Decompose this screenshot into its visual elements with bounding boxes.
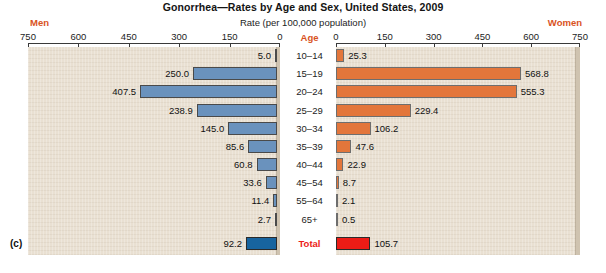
bar-value-label: 33.6 bbox=[239, 177, 266, 188]
axis-tick-label: 0 bbox=[277, 31, 282, 42]
bar-value-label: 60.8 bbox=[230, 159, 257, 170]
bar-women-15-19 bbox=[336, 67, 521, 80]
bar-men-25-29 bbox=[197, 104, 277, 117]
bar-value-label: 106.2 bbox=[371, 123, 403, 134]
bar-value-label: 229.4 bbox=[411, 105, 443, 116]
bar-row: 0.5 bbox=[336, 213, 576, 226]
bar-row: 250.0 bbox=[28, 67, 277, 80]
chart-title: Gonorrhea—Rates by Age and Sex, United S… bbox=[0, 1, 606, 13]
bar-men-35-39 bbox=[248, 140, 277, 153]
bar-men-65- bbox=[275, 213, 277, 226]
bar-men-30-34 bbox=[228, 122, 277, 135]
plot-panel-men: 5.0250.0407.5238.9145.085.660.833.611.42… bbox=[28, 47, 280, 255]
bar-women-total bbox=[336, 237, 370, 250]
bar-women-10-14 bbox=[336, 49, 344, 62]
bar-value-label: 250.0 bbox=[161, 68, 193, 79]
age-category-column: Age 10–1415–1920–2425–2930–3435–3940–444… bbox=[283, 31, 336, 255]
bar-women-40-44 bbox=[336, 158, 343, 171]
age-label-25-29: 25–29 bbox=[283, 104, 336, 117]
bar-value-label: 0.5 bbox=[338, 214, 359, 225]
bar-value-label: 568.8 bbox=[521, 68, 553, 79]
age-label-10-14: 10–14 bbox=[283, 49, 336, 62]
bar-row: 47.6 bbox=[336, 140, 576, 153]
bar-row: 85.6 bbox=[28, 140, 277, 153]
age-label-40-44: 40–44 bbox=[283, 158, 336, 171]
bar-value-label: 25.3 bbox=[344, 50, 371, 61]
bar-rows-men: 5.0250.0407.5238.9145.085.660.833.611.42… bbox=[28, 47, 277, 255]
bar-row: 568.8 bbox=[336, 67, 576, 80]
age-label-30-34: 30–34 bbox=[283, 122, 336, 135]
age-label-20-24: 20–24 bbox=[283, 85, 336, 98]
bar-row: 60.8 bbox=[28, 158, 277, 171]
bar-men-55-64 bbox=[273, 194, 277, 207]
bar-women-25-29 bbox=[336, 104, 411, 117]
legend-label-men: Men bbox=[30, 17, 49, 28]
axis-tick-label: 300 bbox=[171, 31, 187, 42]
bar-value-label: 5.0 bbox=[254, 50, 275, 61]
bar-row: 11.4 bbox=[28, 194, 277, 207]
age-label-55-64: 55–64 bbox=[283, 194, 336, 207]
bar-men-total bbox=[246, 237, 277, 250]
bar-women-35-39 bbox=[336, 140, 351, 153]
bar-row: 238.9 bbox=[28, 104, 277, 117]
bar-men-40-44 bbox=[257, 158, 277, 171]
bar-row: 5.0 bbox=[28, 49, 277, 62]
axis-tick-label: 150 bbox=[377, 31, 393, 42]
bar-value-label: 145.0 bbox=[197, 123, 229, 134]
age-column-header: Age bbox=[283, 32, 336, 43]
bar-value-label: 105.7 bbox=[370, 238, 402, 249]
axis-tick-label: 300 bbox=[426, 31, 442, 42]
bar-value-label: 2.1 bbox=[338, 195, 359, 206]
bar-value-label: 8.7 bbox=[339, 177, 360, 188]
age-label-35-39: 35–39 bbox=[283, 140, 336, 153]
axis-tick-label: 750 bbox=[572, 31, 588, 42]
bar-row: 33.6 bbox=[28, 176, 277, 189]
figure-gonorrhea-rates-by-age-and-sex: Gonorrhea—Rates by Age and Sex, United S… bbox=[0, 0, 606, 273]
bar-value-label: 11.4 bbox=[247, 195, 273, 206]
axis-right-women: 0150300450600750 bbox=[336, 31, 580, 47]
bar-men-20-24 bbox=[140, 85, 277, 98]
bar-row: 22.9 bbox=[336, 158, 576, 171]
axis-tick-label: 750 bbox=[20, 31, 36, 42]
bar-row: 2.1 bbox=[336, 194, 576, 207]
bar-row: 2.7 bbox=[28, 213, 277, 226]
bar-row: 8.7 bbox=[336, 176, 576, 189]
axis-tick-label: 600 bbox=[523, 31, 539, 42]
axis-tick-label: 450 bbox=[121, 31, 137, 42]
chart-subtitle: Rate (per 100,000 population) bbox=[0, 17, 606, 28]
axis-tick-label: 450 bbox=[474, 31, 490, 42]
bar-women-30-34 bbox=[336, 122, 371, 135]
age-label-15-19: 15–19 bbox=[283, 67, 336, 80]
bar-row: 229.4 bbox=[336, 104, 576, 117]
bar-row: 145.0 bbox=[28, 122, 277, 135]
legend-label-women: Women bbox=[548, 17, 582, 28]
bar-rows-women: 25.3568.8555.3229.4106.247.622.98.72.10.… bbox=[336, 47, 576, 255]
age-label-45-54: 45–54 bbox=[283, 176, 336, 189]
bar-value-label: 555.3 bbox=[517, 86, 549, 97]
bar-row: 92.2 bbox=[28, 237, 277, 250]
axis-tick-label: 600 bbox=[70, 31, 86, 42]
age-label-total: Total bbox=[283, 237, 336, 250]
bar-row: 25.3 bbox=[336, 49, 576, 62]
bar-men-45-54 bbox=[266, 176, 277, 189]
bar-value-label: 92.2 bbox=[220, 238, 247, 249]
axis-tick-label: 150 bbox=[222, 31, 238, 42]
axis-left-men: 7506004503001500 bbox=[28, 31, 280, 47]
figure-panel-label: (c) bbox=[10, 238, 22, 249]
bar-men-10-14 bbox=[275, 49, 277, 62]
bar-row: 407.5 bbox=[28, 85, 277, 98]
bar-value-label: 2.7 bbox=[254, 214, 275, 225]
bar-women-20-24 bbox=[336, 85, 517, 98]
bar-value-label: 407.5 bbox=[108, 86, 140, 97]
bar-value-label: 85.6 bbox=[222, 141, 249, 152]
age-label-65-: 65+ bbox=[283, 213, 336, 226]
bar-men-15-19 bbox=[193, 67, 277, 80]
bar-row: 105.7 bbox=[336, 237, 576, 250]
bar-value-label: 22.9 bbox=[343, 159, 370, 170]
bar-row: 555.3 bbox=[336, 85, 576, 98]
bar-value-label: 238.9 bbox=[165, 105, 197, 116]
bar-row: 106.2 bbox=[336, 122, 576, 135]
plot-panel-women: 25.3568.8555.3229.4106.247.622.98.72.10.… bbox=[336, 47, 580, 255]
bar-value-label: 47.6 bbox=[351, 141, 378, 152]
